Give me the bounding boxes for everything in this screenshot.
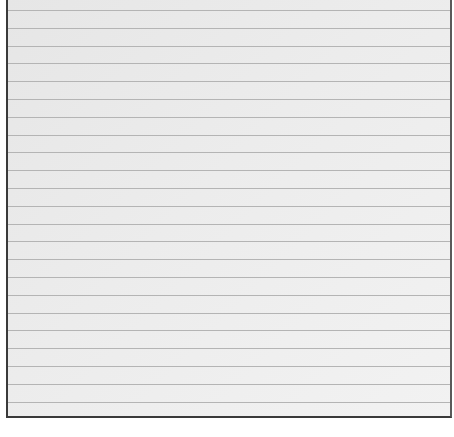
- ruled-line: [8, 259, 450, 260]
- ruled-line: [8, 402, 450, 403]
- ruled-line: [8, 10, 450, 11]
- ruled-line: [8, 81, 450, 82]
- ruled-line: [8, 188, 450, 189]
- ruled-line: [8, 135, 450, 136]
- ruled-line: [8, 384, 450, 385]
- ruled-line: [8, 28, 450, 29]
- ruled-line: [8, 330, 450, 331]
- ruled-line: [8, 117, 450, 118]
- ruled-line: [8, 224, 450, 225]
- ruled-line: [8, 46, 450, 47]
- ruled-line: [8, 99, 450, 100]
- ruled-line: [8, 170, 450, 171]
- ruled-line: [8, 295, 450, 296]
- ruled-line: [8, 348, 450, 349]
- ruled-line: [8, 63, 450, 64]
- ruled-line: [8, 277, 450, 278]
- ruled-line: [8, 206, 450, 207]
- lined-paper-sheet: [6, 0, 452, 418]
- ruled-line: [8, 313, 450, 314]
- ruled-line: [8, 241, 450, 242]
- ruled-line: [8, 366, 450, 367]
- ruled-line: [8, 152, 450, 153]
